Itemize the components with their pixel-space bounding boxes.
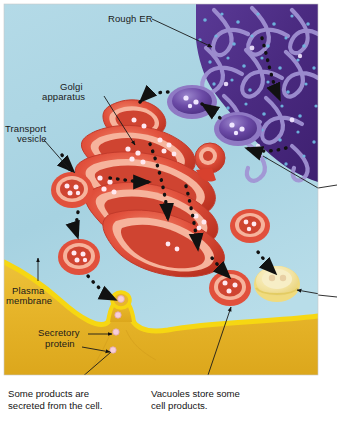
label-secretory-protein-line2: protein (45, 339, 75, 350)
vesicle-red-left (51, 172, 93, 208)
vesicle-red-secretory-right (209, 270, 251, 306)
cell-diagram-illustration (0, 0, 337, 421)
vacuole-structure (254, 266, 300, 302)
caption-secretion-line1: Some products are (8, 388, 89, 399)
caption-secretion-line2: secreted from the cell. (8, 400, 102, 411)
vesicle-purple-1 (167, 85, 217, 119)
caption-vacuoles-line1: Vacuoles store some (151, 388, 240, 399)
label-plasma-membrane-line2: membrane (6, 296, 52, 307)
label-transport-vesicle-line2: vesicle (17, 134, 47, 145)
label-secretory-protein-line1: Secretory (38, 328, 80, 339)
label-golgi-apparatus-line2: apparatus (42, 92, 85, 103)
figure-root: Rough ER Golgi apparatus Transport vesic… (0, 0, 337, 421)
label-rough-er: Rough ER (108, 14, 153, 25)
vesicle-red-right (230, 209, 270, 243)
caption-vacuoles-line2: cell products. (151, 400, 208, 411)
vesicle-red-lower-left (58, 239, 100, 275)
